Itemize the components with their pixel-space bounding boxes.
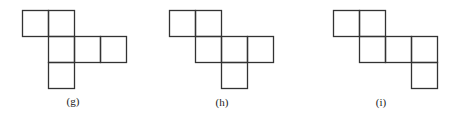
figure-label-i: (i) — [376, 96, 386, 108]
cube-net-h — [170, 11, 274, 89]
figure-label-g: (g) — [67, 95, 80, 107]
net-square — [334, 11, 360, 37]
net-square — [49, 37, 75, 63]
net-square — [170, 11, 196, 37]
net-square — [49, 63, 75, 89]
net-square — [75, 37, 101, 63]
net-square — [222, 63, 248, 89]
net-square — [23, 11, 49, 37]
net-square — [412, 37, 438, 63]
net-square — [360, 11, 386, 37]
net-square — [386, 37, 412, 63]
net-square — [196, 11, 222, 37]
net-square — [360, 37, 386, 63]
figure-label-h: (h) — [216, 96, 229, 108]
cube-net-i — [334, 11, 438, 89]
cube-net-g — [23, 11, 127, 89]
net-square — [101, 37, 127, 63]
net-square — [222, 37, 248, 63]
net-square — [196, 37, 222, 63]
net-square — [49, 11, 75, 37]
net-square — [248, 37, 274, 63]
net-square — [412, 63, 438, 89]
